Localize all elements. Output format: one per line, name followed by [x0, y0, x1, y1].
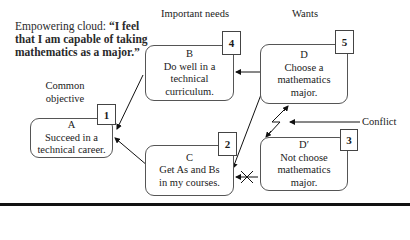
box-dprime-letter: D′: [261, 139, 347, 152]
box-b-line1: Do well in a: [146, 61, 233, 74]
badge-1: 1: [97, 104, 116, 125]
bottom-divider: [0, 203, 410, 206]
box-dprime-line3: major.: [261, 177, 347, 190]
box-b-line3: curriculum.: [146, 86, 233, 99]
badge-3: 3: [340, 129, 358, 151]
box-b-line2: technical: [146, 73, 233, 86]
box-dprime-line1: Not choose: [261, 152, 347, 165]
box-d-line1: Choose a: [261, 62, 347, 75]
box-dprime-want: D′ Not choose mathematics major.: [260, 137, 348, 191]
box-a-line1: Succeed in a: [31, 132, 112, 145]
badge-4: 4: [222, 31, 241, 55]
arrow-b-to-a: [117, 75, 143, 129]
arrow-c-to-a: [115, 138, 148, 166]
box-a-line2: technical career.: [31, 144, 112, 157]
arrow-d-to-c: [233, 92, 262, 168]
box-b-letter: B: [146, 48, 233, 61]
box-b-need: B Do well in a technical curriculum.: [145, 45, 234, 101]
box-c-line1: Get As and Bs: [146, 164, 233, 177]
badge-2: 2: [218, 132, 237, 156]
box-dprime-line2: mathematics: [261, 164, 347, 177]
box-c-line2: in my courses.: [146, 177, 233, 190]
box-d-line3: major.: [261, 87, 347, 100]
badge-5: 5: [335, 30, 354, 54]
box-d-line2: mathematics: [261, 74, 347, 87]
